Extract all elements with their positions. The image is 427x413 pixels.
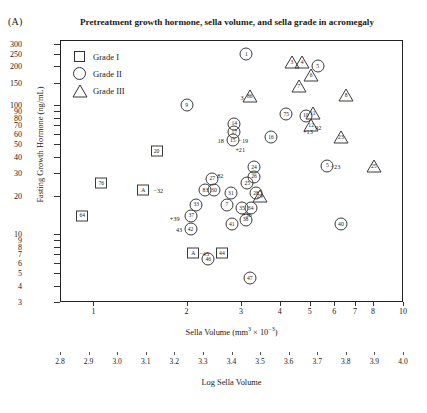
y-tick-label: 30 (0, 168, 22, 177)
y-tick-mark (54, 66, 60, 67)
x2-tick-mark (317, 352, 318, 355)
y-tick-label: 6 (0, 259, 22, 268)
annotation-text: 43 (176, 226, 182, 233)
x-tick-label: 8 (371, 307, 375, 316)
data-point-circle: 40 (334, 218, 347, 231)
data-point-circle: 1 (240, 47, 253, 60)
x2-tick-label: 3.9 (370, 357, 380, 366)
x-tick-label: 6 (332, 307, 336, 316)
x-tick-label: 10 (399, 307, 407, 316)
annotation-text: 82 (217, 171, 223, 178)
y-tick-mark (54, 247, 60, 248)
x-tick-label: 4 (278, 307, 282, 316)
point-label: 75 (280, 108, 293, 121)
circle-icon (72, 67, 88, 81)
x-tick-mark (334, 302, 335, 306)
point-label: 16 (265, 130, 278, 143)
x2-tick-mark (232, 352, 233, 355)
x2-tick-label: 3.6 (284, 357, 294, 366)
data-point-circle: 7 (220, 198, 233, 211)
point-label: 9 (180, 99, 193, 112)
x2-tick-mark (203, 352, 204, 355)
x2-tick-label: 4.0 (398, 357, 408, 366)
x-tick-label: 2 (185, 307, 189, 316)
x2-tick-label: 3.5 (255, 357, 265, 366)
y-tick-mark (54, 111, 60, 112)
y-tick-mark (54, 263, 60, 264)
data-point-triangle: 29 (252, 189, 268, 203)
x-tick-mark (373, 302, 374, 306)
point-label: 44 (216, 247, 228, 258)
x2-tick-mark (89, 352, 90, 355)
data-point-square: 76 (95, 178, 107, 189)
x-tick-mark (310, 302, 311, 306)
y-tick-label: 5 (0, 269, 22, 278)
data-point-circle: 9 (180, 99, 193, 112)
data-point-circle: 30 (207, 184, 220, 197)
y-tick-label: 150 (0, 78, 22, 87)
x2-tick-mark (174, 352, 175, 355)
x2-tick-label: 3.8 (341, 357, 351, 366)
point-label: 86 (242, 94, 258, 100)
y-tick-label: 4 (0, 281, 22, 290)
data-point-triangle: 86 (242, 89, 258, 103)
y-tick-mark (54, 254, 60, 255)
point-label: 11 (305, 111, 321, 117)
x2-tick-label: 3.0 (112, 357, 122, 366)
point-label: 41 (225, 218, 238, 231)
point-label: 25 (366, 164, 382, 170)
x2-tick-label: 3.4 (227, 357, 237, 366)
legend-item-grade-i: Grade I (72, 48, 125, 65)
data-point-circle: 16 (265, 130, 278, 143)
y-tick-mark (54, 54, 60, 55)
point-label: 29 (252, 194, 268, 200)
data-point-circle: 75 (280, 108, 293, 121)
x-tick-mark (355, 302, 356, 306)
legend-label: Grade I (93, 52, 119, 62)
point-label: 4 (294, 60, 310, 66)
annotation-text: −32 (153, 187, 163, 194)
point-label: 7 (291, 84, 307, 90)
point-label: 40 (334, 218, 347, 231)
y-tick-label: 3 (0, 298, 22, 307)
legend-label: Grade II (93, 69, 122, 79)
y-tick-label: 40 (0, 152, 22, 161)
x2-tick-label: 3.2 (170, 357, 180, 366)
figure-panel-a: (A) Pretreatment growth hormone, sella v… (0, 0, 427, 413)
x2-tick-label: 2.9 (84, 357, 94, 366)
annotation-text: +39 (170, 214, 180, 221)
x2-tick-label: 3.7 (313, 357, 323, 366)
bracket-marker: A (137, 185, 149, 196)
y-tick-mark (54, 118, 60, 119)
annotation-text: 18 (218, 136, 224, 143)
data-point-triangle: 25 (366, 159, 382, 173)
x2-tick-mark (346, 352, 347, 355)
point-label: 6 (303, 73, 319, 79)
x2-tick-mark (117, 352, 118, 355)
y-tick-label: 100 (0, 101, 22, 110)
x-tick-mark (187, 302, 188, 306)
x-tick-mark (403, 302, 404, 306)
x-tick-mark (280, 302, 281, 306)
annotation-text: 92 (315, 123, 321, 130)
x2-tick-mark (289, 352, 290, 355)
data-point-triangle: 7 (291, 79, 307, 93)
annotation-text: −45 (199, 249, 209, 256)
x-axis-label: Sella Volume (mm3 × 10−3) (60, 326, 403, 337)
y-tick-mark (54, 125, 60, 126)
y-tick-mark (54, 144, 60, 145)
data-point-circle: 42 (184, 223, 197, 236)
y-tick-mark (54, 286, 60, 287)
x-tick-mark (241, 302, 242, 306)
legend-item-grade-ii: Grade II (72, 65, 125, 82)
x2-tick-label: 2.8 (55, 357, 65, 366)
data-point-triangle: 8 (338, 88, 354, 102)
point-label: 20 (151, 146, 163, 157)
point-label: 42 (184, 223, 197, 236)
annotation-text: 3 (240, 94, 243, 101)
point-label: 37 (185, 209, 198, 222)
triangle-icon (72, 84, 88, 98)
x2-tick-mark (146, 352, 147, 355)
annotation-text: +21 (235, 145, 245, 152)
x2-tick-mark (374, 352, 375, 355)
